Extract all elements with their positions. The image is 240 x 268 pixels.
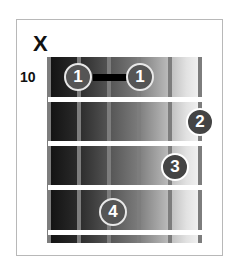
finger-dot: 2 xyxy=(186,108,214,136)
fret-line xyxy=(48,97,202,102)
fret-line xyxy=(48,230,202,235)
string-1 xyxy=(47,57,51,243)
finger-dot: 1 xyxy=(126,63,154,91)
fret-line xyxy=(48,141,202,146)
start-fret-number: 10 xyxy=(20,69,36,85)
finger-dot: 3 xyxy=(161,153,189,181)
muted-string-marker: X xyxy=(33,31,48,57)
string-5 xyxy=(168,57,172,243)
fret-line xyxy=(48,185,202,190)
string-6 xyxy=(198,57,202,243)
finger-dot: 1 xyxy=(64,63,92,91)
finger-dot: 4 xyxy=(99,198,127,226)
